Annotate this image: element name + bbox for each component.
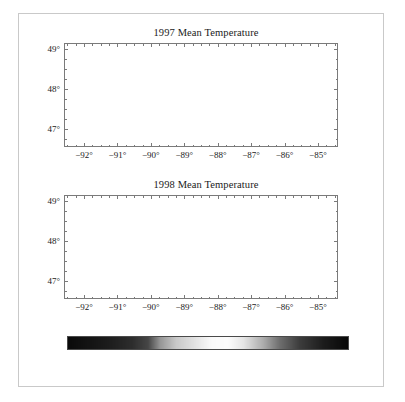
y-tick-minor: [336, 231, 339, 232]
x-tick-minor: [310, 297, 311, 300]
x-tick-minor: [259, 145, 260, 148]
y-tick-major: [64, 49, 68, 50]
x-tick-major: [84, 295, 85, 299]
x-tick-minor: [101, 195, 102, 198]
x-tick-major: [218, 143, 219, 147]
x-tick-major: [285, 295, 286, 299]
x-tick-major: [251, 195, 252, 199]
panel-title-1998: 1998 Mean Temperature: [46, 179, 366, 190]
x-tick-minor: [193, 297, 194, 300]
x-tick-minor: [159, 195, 160, 198]
x-tick-minor: [243, 43, 244, 46]
x-tick-minor: [326, 297, 327, 300]
x-tick-minor: [301, 195, 302, 198]
x-tick-minor: [168, 145, 169, 148]
x-tick-minor: [92, 145, 93, 148]
x-tick-minor: [234, 145, 235, 148]
y-tick-minor: [336, 291, 339, 292]
x-tick-minor: [201, 43, 202, 46]
y-tick-minor: [64, 59, 67, 60]
x-tick-label: −87°: [242, 150, 260, 160]
y-tick-minor: [64, 221, 67, 222]
x-tick-minor: [259, 297, 260, 300]
x-tick-minor: [234, 43, 235, 46]
x-tick-minor: [268, 297, 269, 300]
x-tick-major: [285, 143, 286, 147]
x-tick-label: −89°: [175, 150, 193, 160]
x-tick-label: −87°: [242, 302, 260, 312]
y-tick-major: [334, 129, 338, 130]
y-tick-minor: [336, 139, 339, 140]
x-tick-minor: [67, 43, 68, 46]
y-tick-minor: [64, 231, 67, 232]
x-tick-minor: [159, 297, 160, 300]
x-tick-label: −85°: [309, 302, 327, 312]
x-tick-minor: [335, 145, 336, 148]
x-tick-minor: [101, 43, 102, 46]
x-tick-minor: [193, 145, 194, 148]
y-tick-label: 48°: [46, 236, 60, 246]
x-tick-minor: [301, 43, 302, 46]
x-tick-label: −92°: [75, 150, 93, 160]
x-tick-minor: [134, 43, 135, 46]
x-tick-major: [285, 195, 286, 199]
x-tick-major: [184, 143, 185, 147]
x-tick-minor: [168, 43, 169, 46]
x-tick-minor: [209, 195, 210, 198]
x-tick-minor: [293, 195, 294, 198]
y-tick-label: 49°: [46, 196, 60, 206]
x-tick-minor: [76, 297, 77, 300]
x-tick-minor: [335, 195, 336, 198]
x-tick-label: −89°: [175, 302, 193, 312]
x-tick-minor: [143, 297, 144, 300]
y-tick-minor: [336, 69, 339, 70]
lake-temperature-heatmap-1997: [65, 44, 337, 146]
x-tick-minor: [76, 43, 77, 46]
x-tick-major: [318, 43, 319, 47]
x-tick-minor: [201, 297, 202, 300]
x-tick-minor: [143, 145, 144, 148]
y-tick-minor: [336, 261, 339, 262]
y-tick-minor: [336, 221, 339, 222]
y-tick-major: [334, 241, 338, 242]
x-tick-major: [84, 195, 85, 199]
x-tick-label: −86°: [276, 302, 294, 312]
x-tick-label: −91°: [109, 302, 127, 312]
x-tick-label: −88°: [209, 302, 227, 312]
colorbar: [67, 336, 349, 370]
x-tick-minor: [293, 43, 294, 46]
colorbar-gradient: [67, 336, 349, 350]
x-tick-minor: [243, 297, 244, 300]
panel-1998: 1998 Mean Temperature −92°−91°−90°−89°−8…: [46, 179, 366, 323]
x-tick-major: [318, 195, 319, 199]
x-tick-minor: [159, 43, 160, 46]
x-tick-minor: [243, 145, 244, 148]
x-tick-major: [117, 195, 118, 199]
x-tick-minor: [67, 195, 68, 198]
x-tick-major: [285, 43, 286, 47]
x-tick-minor: [226, 43, 227, 46]
y-tick-label: 47°: [46, 276, 60, 286]
y-tick-minor: [64, 69, 67, 70]
x-tick-minor: [193, 43, 194, 46]
x-tick-major: [184, 195, 185, 199]
y-tick-major: [334, 201, 338, 202]
y-tick-minor: [64, 261, 67, 262]
x-tick-major: [184, 295, 185, 299]
x-tick-minor: [259, 43, 260, 46]
x-tick-major: [84, 143, 85, 147]
x-tick-minor: [234, 297, 235, 300]
x-tick-minor: [234, 195, 235, 198]
x-tick-major: [84, 43, 85, 47]
x-tick-major: [151, 295, 152, 299]
lake-temperature-heatmap-1998: [65, 196, 337, 298]
y-tick-minor: [64, 109, 67, 110]
x-tick-label: −90°: [142, 302, 160, 312]
y-tick-minor: [64, 79, 67, 80]
x-tick-label: −90°: [142, 150, 160, 160]
y-tick-minor: [336, 271, 339, 272]
x-tick-minor: [301, 145, 302, 148]
x-tick-minor: [168, 297, 169, 300]
x-tick-label: −91°: [109, 150, 127, 160]
x-tick-minor: [126, 43, 127, 46]
